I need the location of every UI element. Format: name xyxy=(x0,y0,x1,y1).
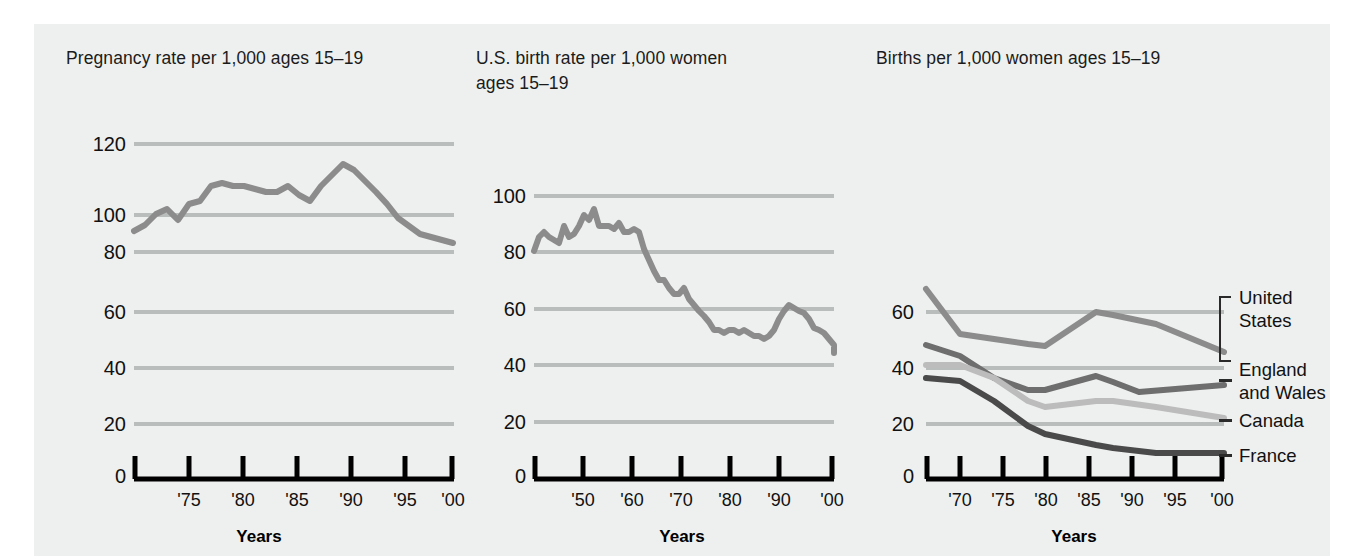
figure-background: Pregnancy rate per 1,000 ages 15–19 xyxy=(34,24,1330,556)
chart1-xtick-90: '90 xyxy=(339,490,362,511)
chart3-series-united-states xyxy=(926,289,1224,352)
chart2-ytick-60: 60 xyxy=(456,298,526,321)
chart1-xtick-75: '75 xyxy=(177,490,200,511)
chart2-ytick-100: 100 xyxy=(456,185,526,208)
chart3-xtick-80: '80 xyxy=(1034,490,1057,511)
legend-dash-canada xyxy=(1219,419,1232,422)
chart2-series-line xyxy=(534,209,834,353)
chart3-ytick-0: 0 xyxy=(852,465,914,488)
chart3-xtick-85: '85 xyxy=(1077,490,1100,511)
chart3-xtick-90: '90 xyxy=(1120,490,1143,511)
chart2-xtick-50: '50 xyxy=(571,490,594,511)
chart2-ytick-0: 0 xyxy=(456,465,526,488)
chart3-xtick-75: '75 xyxy=(991,490,1014,511)
chart3-xaxis xyxy=(926,456,1224,479)
chart3-xaxis-caption: Years xyxy=(1051,527,1096,547)
chart2-xtick-90: '90 xyxy=(767,490,790,511)
chart1-ytick-100: 100 xyxy=(52,204,126,227)
chart1-xtick-85: '85 xyxy=(285,490,308,511)
chart1-ytick-0: 0 xyxy=(52,465,126,488)
legend-dash-france xyxy=(1219,454,1232,457)
chart1-ytick-20: 20 xyxy=(52,413,126,436)
legend-label-canada: Canada xyxy=(1239,409,1304,432)
chart-international-births: Births per 1,000 women ages 15–19 xyxy=(864,24,1330,556)
chart1-ytick-60: 60 xyxy=(52,301,126,324)
chart2-ytick-40: 40 xyxy=(456,354,526,377)
legend-label-france: France xyxy=(1239,444,1297,467)
chart2-ytick-20: 20 xyxy=(456,411,526,434)
chart2-xtick-80: '80 xyxy=(718,490,741,511)
chart1-gridlines xyxy=(134,144,454,424)
legend-label-united-states: United States xyxy=(1239,286,1292,332)
chart3-xtick-00: '00 xyxy=(1210,490,1233,511)
chart-pregnancy-rate: Pregnancy rate per 1,000 ages 15–19 xyxy=(34,24,464,556)
legend-label-england-wales: England and Wales xyxy=(1239,358,1326,404)
chart2-ytick-80: 80 xyxy=(456,241,526,264)
chart3-xtick-95: '95 xyxy=(1163,490,1186,511)
chart3-ytick-60: 60 xyxy=(852,301,914,324)
chart1-xtick-00: '00 xyxy=(441,490,464,511)
chart2-xaxis-caption: Years xyxy=(659,527,704,547)
chart1-ytick-120: 120 xyxy=(52,133,126,156)
legend-dash-england-wales xyxy=(1219,379,1232,382)
chart2-xaxis xyxy=(534,456,834,479)
chart3-ytick-40: 40 xyxy=(852,357,914,380)
legend-bracket-united-states xyxy=(1219,296,1231,362)
chart1-xtick-95: '95 xyxy=(393,490,416,511)
chart3-xtick-70: '70 xyxy=(948,490,971,511)
chart1-xaxis xyxy=(134,456,454,479)
chart-us-birth-rate: U.S. birth rate per 1,000 women ages 15–… xyxy=(464,24,864,556)
chart1-series-line xyxy=(134,164,453,243)
chart2-xtick-00: '00 xyxy=(820,490,843,511)
chart1-ytick-40: 40 xyxy=(52,357,126,380)
chart2-xtick-70: '70 xyxy=(669,490,692,511)
chart1-xaxis-caption: Years xyxy=(236,527,281,547)
chart2-xtick-60: '60 xyxy=(620,490,643,511)
chart1-ytick-80: 80 xyxy=(52,241,126,264)
chart1-xtick-80: '80 xyxy=(231,490,254,511)
chart3-ytick-20: 20 xyxy=(852,413,914,436)
